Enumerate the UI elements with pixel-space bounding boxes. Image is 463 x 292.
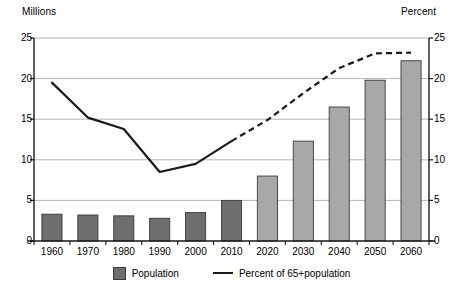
y-axis-tick-right: 0	[434, 235, 454, 247]
y-axis-tick-left: 20	[14, 73, 32, 85]
legend-entry-percent: Percent of 65+population	[213, 268, 350, 279]
x-axis-tick-label: 2010	[212, 246, 252, 257]
legend-label-percent: Percent of 65+population	[239, 268, 350, 279]
legend-line-percent	[213, 272, 233, 274]
y-axis-tick-right-label: 5	[434, 194, 454, 205]
y-axis-tick-right-label: 20	[434, 73, 454, 84]
y-axis-tick-left-label: 5	[14, 194, 32, 205]
y-axis-tick-right: 10	[434, 154, 454, 166]
y-axis-tick-right: 15	[434, 113, 454, 125]
x-axis-tick-label: 2020	[247, 246, 287, 257]
legend-swatch-population	[113, 267, 126, 280]
y-axis-tick-left: 10	[14, 154, 32, 166]
chart-figure: Millions Percent 00551010151520202525196…	[0, 0, 463, 292]
y-axis-tick-right-label: 0	[434, 235, 454, 246]
y-axis-tick-right-label: 25	[434, 32, 454, 43]
x-axis-tick-label: 1970	[68, 246, 108, 257]
legend-entry-population: Population	[113, 267, 179, 280]
chart-legend: Population Percent of 65+population	[0, 264, 463, 282]
y-axis-tick-left-label: 25	[14, 32, 32, 43]
y-axis-tick-right: 25	[434, 32, 454, 44]
y-axis-tick-left-label: 0	[14, 235, 32, 246]
y-axis-tick-left-label: 15	[14, 113, 32, 124]
y-axis-tick-left-label: 20	[14, 73, 32, 84]
x-axis-tick-label: 2040	[319, 246, 359, 257]
x-axis-tick-label: 2030	[283, 246, 323, 257]
y-axis-tick-left: 5	[14, 194, 32, 206]
x-axis-tick-label: 1960	[32, 246, 72, 257]
x-axis-tick-label: 2050	[355, 246, 395, 257]
x-axis-tick-label: 1980	[104, 246, 144, 257]
x-axis-tick-label: 1990	[140, 246, 180, 257]
y-axis-tick-left-label: 10	[14, 154, 32, 165]
y-axis-tick-right-label: 10	[434, 154, 454, 165]
y-axis-tick-left: 0	[14, 235, 32, 247]
legend-label-population: Population	[132, 268, 179, 279]
y-axis-tick-right: 5	[434, 194, 454, 206]
x-axis-tick-label: 2060	[391, 246, 431, 257]
y-axis-tick-left: 15	[14, 113, 32, 125]
y-axis-tick-right-label: 15	[434, 113, 454, 124]
x-axis-tick-label: 2000	[176, 246, 216, 257]
y-axis-tick-left: 25	[14, 32, 32, 44]
y-axis-tick-right: 20	[434, 73, 454, 85]
